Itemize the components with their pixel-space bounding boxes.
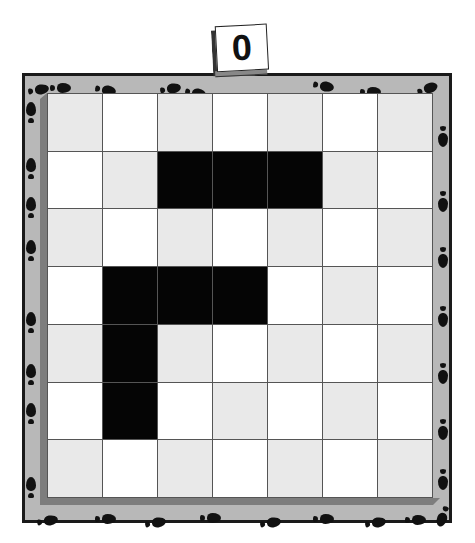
board-cell-r3-c0[interactable] (48, 267, 102, 324)
board-cell-r0-c3[interactable] (213, 94, 267, 151)
footprint-icon (404, 515, 426, 525)
board-cell-r1-c3[interactable] (213, 152, 267, 209)
board-cell-r1-c5[interactable] (323, 152, 377, 209)
board-cell-r2-c6[interactable] (378, 209, 432, 266)
board-cell-r6-c6[interactable] (378, 440, 432, 497)
board-cell-r5-c3[interactable] (213, 383, 267, 440)
footprint-icon (26, 312, 36, 334)
board-cell-r2-c2[interactable] (158, 209, 212, 266)
board-cell-r4-c6[interactable] (378, 325, 432, 382)
footprint-icon (26, 102, 36, 124)
footprint-icon (26, 197, 36, 219)
board-cell-r1-c0[interactable] (48, 152, 102, 209)
board-cell-r0-c1[interactable] (103, 94, 157, 151)
footprint-icon (438, 418, 448, 440)
board-cell-r3-c3[interactable] (213, 267, 267, 324)
footprint-icon (26, 403, 36, 425)
board-cell-r4-c2[interactable] (158, 325, 212, 382)
board-cell-r4-c1[interactable] (103, 325, 157, 382)
board-cell-r5-c5[interactable] (323, 383, 377, 440)
board-cell-r1-c2[interactable] (158, 152, 212, 209)
board-cell-r3-c2[interactable] (158, 267, 212, 324)
board-cell-r6-c0[interactable] (48, 440, 102, 497)
board-cell-r2-c0[interactable] (48, 209, 102, 266)
footprint-icon (438, 362, 448, 384)
footprint-icon (49, 83, 71, 93)
board-cell-r3-c5[interactable] (323, 267, 377, 324)
board-bevel-left (40, 93, 47, 505)
board-cell-r0-c5[interactable] (323, 94, 377, 151)
board-cell-r5-c0[interactable] (48, 383, 102, 440)
board-cell-r5-c1[interactable] (103, 383, 157, 440)
board-cell-r6-c2[interactable] (158, 440, 212, 497)
board-cell-r2-c5[interactable] (323, 209, 377, 266)
board-cell-r3-c4[interactable] (268, 267, 322, 324)
board-cell-r4-c0[interactable] (48, 325, 102, 382)
board-cell-r1-c6[interactable] (378, 152, 432, 209)
footprint-icon (438, 190, 448, 212)
board-cell-r4-c5[interactable] (323, 325, 377, 382)
board-cell-r6-c3[interactable] (213, 440, 267, 497)
board-cell-r0-c2[interactable] (158, 94, 212, 151)
board-cell-r0-c6[interactable] (378, 94, 432, 151)
board-cell-r4-c4[interactable] (268, 325, 322, 382)
board-cell-r0-c0[interactable] (48, 94, 102, 151)
board-cell-r6-c1[interactable] (103, 440, 157, 497)
footprint-icon (143, 516, 166, 530)
board-cell-r6-c5[interactable] (323, 440, 377, 497)
footprint-icon (26, 240, 36, 262)
footprint-icon (26, 158, 36, 180)
board-cell-r4-c3[interactable] (213, 325, 267, 382)
move-counter: 0 (211, 24, 270, 77)
footprint-icon (438, 246, 448, 268)
footprint-icon (438, 305, 448, 327)
board-bevel-bottom (40, 498, 440, 505)
board-cell-r1-c4[interactable] (268, 152, 322, 209)
board-cell-r2-c1[interactable] (103, 209, 157, 266)
board-cell-r5-c2[interactable] (158, 383, 212, 440)
footprint-icon (438, 125, 448, 147)
footprint-icon (35, 514, 58, 528)
board-cell-r6-c4[interactable] (268, 440, 322, 497)
game-board-grid[interactable] (47, 93, 433, 498)
footprint-icon (438, 468, 448, 490)
board-cell-r5-c6[interactable] (378, 383, 432, 440)
board-cell-r5-c4[interactable] (268, 383, 322, 440)
footprint-icon (199, 513, 221, 523)
footprint-icon (26, 364, 36, 386)
counter-value: 0 (215, 24, 269, 73)
footprint-icon (94, 514, 116, 524)
board-cell-r3-c1[interactable] (103, 267, 157, 324)
board-cell-r2-c3[interactable] (213, 209, 267, 266)
footprint-icon (312, 514, 334, 524)
board-cell-r2-c4[interactable] (268, 209, 322, 266)
board-cell-r0-c4[interactable] (268, 94, 322, 151)
footprint-icon (258, 516, 281, 530)
footprint-icon (363, 516, 386, 530)
footprint-icon (26, 477, 36, 499)
board-cell-r1-c1[interactable] (103, 152, 157, 209)
board-cell-r3-c6[interactable] (378, 267, 432, 324)
